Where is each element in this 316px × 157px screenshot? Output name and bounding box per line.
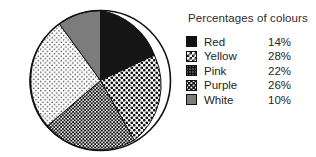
legend-value-pink: 22%	[268, 65, 291, 77]
legend-value-purple: 26%	[268, 79, 291, 91]
legend: Percentages of colours Red 14% Yellow 28…	[186, 12, 316, 107]
solid-black-swatch	[186, 36, 197, 47]
legend-label-pink: Pink	[204, 65, 268, 77]
legend-label-red: Red	[204, 36, 268, 48]
legend-title: Percentages of colours	[188, 12, 316, 24]
light-dots-swatch	[186, 80, 197, 91]
legend-label-purple: Purple	[204, 79, 268, 91]
legend-row-yellow: Yellow 28%	[186, 49, 316, 63]
gray-swatch	[186, 94, 197, 105]
legend-value-red: 14%	[268, 36, 291, 48]
checker-swatch	[186, 51, 197, 62]
pie-chart-svg	[28, 9, 173, 152]
legend-value-yellow: 28%	[268, 50, 291, 62]
legend-row-red: Red 14%	[186, 35, 316, 49]
legend-row-white: White 10%	[186, 93, 316, 107]
pie-chart-figure	[28, 9, 173, 152]
dense-dots-swatch	[186, 65, 197, 76]
legend-row-purple: Purple 26%	[186, 78, 316, 92]
legend-value-white: 10%	[268, 94, 291, 106]
legend-row-pink: Pink 22%	[186, 64, 316, 78]
legend-label-white: White	[204, 94, 268, 106]
legend-label-yellow: Yellow	[204, 50, 268, 62]
